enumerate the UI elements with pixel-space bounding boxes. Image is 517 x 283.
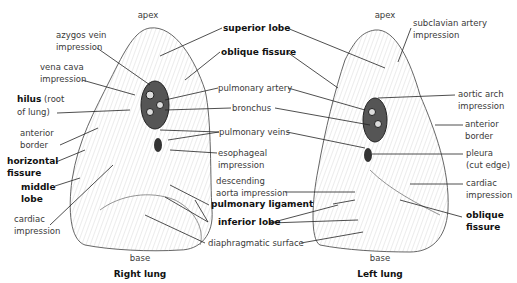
inferior-lobe-label: inferior lobe [218, 217, 281, 228]
cardiac-r-1: cardiac [14, 214, 45, 225]
anterior-border-l-2: border [465, 131, 493, 142]
oblique-fissure-label: oblique fissure [221, 47, 296, 58]
aortic-arch-label-1: aortic arch [458, 89, 504, 100]
hilus-sub-1: (root [44, 94, 64, 104]
bronchus-label: bronchus [232, 103, 271, 114]
azygos-label-2: impression [56, 42, 102, 53]
desc-aorta-label-2: aorta impression [216, 188, 288, 199]
pulmonary-artery-label: pulmonary artery [218, 83, 292, 94]
hilus-sub-2: of lung) [17, 107, 50, 118]
middle-lobe-2: lobe [21, 194, 43, 205]
esophageal-label-2: impression [218, 160, 264, 171]
oblique-fissure-l-1: oblique [466, 210, 504, 221]
right-base-label: base [120, 253, 160, 264]
left-lung-shape [313, 30, 448, 252]
horizontal-fissure-1: horizontal [7, 156, 58, 167]
esophageal-label-1: esophageal [218, 148, 267, 159]
cardiac-r-2: impression [14, 226, 60, 237]
subclavian-label-2: impression [413, 30, 459, 41]
cardiac-l-2: impression [466, 190, 512, 201]
anterior-border-r-1: anterior [20, 128, 54, 139]
pleura-label-1: pleura [466, 148, 493, 159]
diaphragmatic-label: diaphragmatic surface [208, 238, 304, 249]
left-lung-title: Left lung [345, 269, 415, 280]
pleura-label-2: (cut edge) [466, 160, 510, 171]
anterior-border-l-1: anterior [465, 119, 499, 130]
vena-cava-label-1: vena cava [40, 62, 84, 73]
desc-aorta-label-1: descending [216, 176, 265, 187]
subclavian-label-1: subclavian artery [413, 18, 487, 29]
right-lung-title: Right lung [105, 269, 175, 280]
right-apex-label: apex [128, 10, 168, 21]
cardiac-l-1: cardiac [466, 178, 497, 189]
left-base-label: base [360, 253, 400, 264]
anterior-border-r-2: border [20, 140, 48, 151]
horizontal-fissure-2: fissure [7, 168, 41, 179]
right-lung-shape [70, 28, 212, 251]
hilus-label: hilus [17, 94, 41, 104]
left-apex-label: apex [365, 10, 405, 21]
pulmonary-ligament-label: pulmonary ligament [211, 199, 313, 210]
vena-cava-label-2: impression [40, 74, 86, 85]
pulmonary-veins-label: pulmonary veins [219, 127, 290, 138]
aortic-arch-label-2: impression [458, 101, 504, 112]
superior-lobe-label: superior lobe [223, 23, 290, 34]
azygos-label-1: azygos vein [56, 30, 106, 41]
middle-lobe-1: middle [21, 182, 56, 193]
oblique-fissure-l-2: fissure [466, 222, 500, 233]
